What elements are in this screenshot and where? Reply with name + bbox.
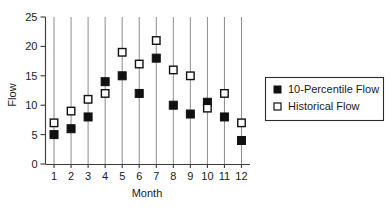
x-tick-label-5: 6 [136, 170, 142, 182]
marker-filled-month-9 [186, 110, 194, 118]
marker-open-month-2 [67, 107, 75, 115]
marker-open-month-12 [238, 119, 246, 127]
marker-filled-month-1 [50, 131, 58, 139]
marker-open-month-3 [84, 96, 92, 104]
data-markers [50, 37, 245, 145]
x-axis-title: Month [132, 187, 163, 199]
y-axis-ticks: 0510152025 [25, 11, 45, 170]
marker-open-month-9 [187, 72, 195, 80]
y-tick-label-0: 0 [31, 158, 37, 170]
x-tick-label-6: 7 [153, 170, 159, 182]
series-0 [50, 54, 245, 144]
legend-label-0: 10-Percentile Flow [288, 83, 379, 95]
marker-filled-month-3 [84, 113, 92, 121]
marker-filled-month-7 [152, 54, 160, 62]
y-tick-label-5: 25 [25, 11, 37, 23]
x-axis-ticks: 123456789101112 [51, 164, 248, 182]
legend-label-1: Historical Flow [288, 100, 360, 112]
marker-open-month-8 [170, 66, 178, 74]
marker-filled-month-2 [67, 125, 75, 133]
chart-axes [46, 17, 251, 165]
marker-open-month-1 [50, 119, 58, 127]
x-tick-label-8: 9 [187, 170, 193, 182]
marker-open-month-5 [118, 49, 126, 57]
marker-filled-month-11 [220, 113, 228, 121]
marker-filled-month-6 [135, 89, 143, 97]
marker-filled-month-4 [101, 78, 109, 86]
x-tick-label-1: 2 [68, 170, 74, 182]
marker-filled-month-5 [118, 72, 126, 80]
chart-legend: 10-Percentile Flow Historical Flow [266, 78, 384, 121]
x-tick-label-2: 3 [85, 170, 91, 182]
y-axis-title: Flow [6, 83, 18, 106]
x-tick-label-9: 10 [201, 170, 213, 182]
x-tick-label-0: 1 [51, 170, 57, 182]
x-tick-label-4: 5 [119, 170, 125, 182]
y-tick-label-3: 15 [25, 70, 37, 82]
legend-marker-filled-square-icon [274, 86, 281, 93]
x-tick-label-10: 11 [219, 170, 230, 182]
x-tick-label-3: 4 [102, 170, 108, 182]
marker-open-month-4 [101, 90, 109, 98]
marker-filled-month-12 [237, 136, 245, 144]
legend-marker-open-square-icon [274, 103, 281, 110]
y-tick-label-4: 20 [25, 40, 37, 52]
chart-figure: 0510152025 123456789101112 Month Flow 10… [0, 0, 392, 209]
marker-open-month-7 [153, 37, 161, 45]
marker-filled-month-8 [169, 101, 177, 109]
marker-open-month-11 [221, 90, 229, 98]
x-tick-label-7: 8 [170, 170, 176, 182]
marker-open-month-10 [204, 104, 212, 112]
marker-open-month-6 [135, 60, 143, 68]
series-1 [50, 37, 245, 127]
chart-canvas: 0510152025 123456789101112 Month Flow 10… [0, 0, 392, 209]
y-tick-label-2: 10 [25, 99, 37, 111]
y-tick-label-1: 5 [31, 129, 37, 141]
gridlines [54, 17, 241, 164]
x-tick-label-11: 12 [235, 170, 247, 182]
